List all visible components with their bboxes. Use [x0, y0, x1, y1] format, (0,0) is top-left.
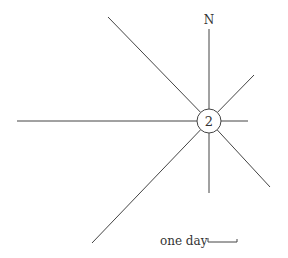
ray-se [217, 130, 270, 187]
hub-label: 2 [205, 114, 213, 129]
ray-ne [217, 75, 254, 112]
ray-sw [92, 130, 201, 243]
scale-label: one day [160, 234, 208, 248]
north-label: N [204, 13, 215, 27]
rays [17, 17, 270, 243]
scale-bar [208, 238, 237, 242]
wind-rose-diagram: 2 N one day [0, 0, 288, 258]
ray-nw [108, 17, 201, 112]
